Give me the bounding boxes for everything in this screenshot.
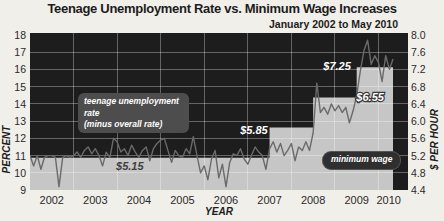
series-legend-line1: teenage unemployment rate [84,96,185,119]
x-axis-title: YEAR [30,206,408,217]
x-tick-2004: 2004 [122,194,156,206]
y-left-tick-10: 10 [0,168,26,179]
wage-annotation-655: $6.55 [355,91,384,103]
y-left-tick-16: 16 [0,64,26,75]
series-legend-line2: (minus overall rate) [84,119,185,131]
x-tick-2010: 2010 [372,194,406,206]
chart-figure: Teenage Unemployment Rate vs. Minimum Wa… [0,0,444,221]
minimum-wage-badge: minimum wage [322,151,401,170]
y-right-tick-4.4: 4.4 [411,185,441,196]
y-right-tick-7.2: 7.2 [411,64,441,75]
series-legend-badge: teenage unemployment rate (minus overall… [78,93,189,133]
y-left-tick-9: 9 [0,185,26,196]
y-left-tick-11: 11 [0,151,26,162]
x-tick-2007: 2007 [253,194,287,206]
wage-annotation-725: $7.25 [322,60,351,72]
y-left-tick-18: 18 [0,30,26,41]
chart-title: Teenage Unemployment Rate vs. Minimum Wa… [0,1,444,16]
y-right-tick-5.6: 5.6 [411,133,441,144]
x-tick-2006: 2006 [209,194,243,206]
y-right-tick-4.8: 4.8 [411,168,441,179]
x-tick-2002: 2002 [35,194,69,206]
y-left-tick-15: 15 [0,82,26,93]
y-left-tick-13: 13 [0,116,26,127]
y-right-tick-6.4: 6.4 [411,99,441,110]
x-tick-2003: 2003 [78,194,112,206]
chart-subtitle: January 2002 to May 2010 [269,18,398,30]
x-tick-2005: 2005 [165,194,199,206]
wage-annotation-515: $5.15 [115,160,144,172]
y-right-tick-5.2: 5.2 [411,151,441,162]
x-tick-2008: 2008 [296,194,330,206]
y-right-tick-6.8: 6.8 [411,82,441,93]
x-tick-2009: 2009 [340,194,374,206]
y-left-tick-14: 14 [0,99,26,110]
y-left-tick-12: 12 [0,133,26,144]
y-right-tick-7.6: 7.6 [411,47,441,58]
y-right-tick-8.0: 8.0 [411,30,441,41]
wage-annotation-585: $5.85 [239,124,268,136]
y-right-tick-6.0: 6.0 [411,116,441,127]
y-left-tick-17: 17 [0,47,26,58]
